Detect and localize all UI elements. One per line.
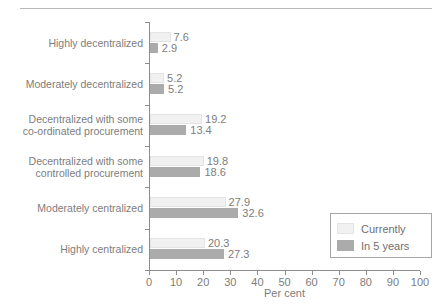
x-axis-title: Per cent — [149, 287, 420, 299]
category-label-line: Highly decentralized — [13, 37, 143, 49]
legend-swatch-currently — [337, 223, 354, 234]
bar-in-5-years: 27.3 — [150, 249, 224, 259]
x-tick-30 — [230, 271, 231, 275]
x-tick-20 — [203, 271, 204, 275]
bar-currently: 19.8 — [150, 156, 204, 166]
bar-in-5-years: 18.6 — [150, 167, 200, 177]
category-label-line: Highly centralized — [13, 243, 143, 255]
category-label-line: Moderately centralized — [13, 202, 143, 214]
bar-chart-figure: 0102030405060708090100 Highly decentrali… — [0, 0, 443, 308]
category-label: Decentralized with somecontrolled procur… — [13, 155, 143, 179]
bar-value-label: 27.3 — [228, 248, 249, 260]
bar-group: Highly decentralized7.62.9 — [149, 22, 420, 63]
top-divider-rule — [20, 8, 432, 9]
category-label-line: Decentralized with some — [13, 155, 143, 167]
bar-currently: 19.2 — [150, 114, 202, 124]
category-label: Moderately centralized — [13, 202, 143, 214]
legend-label-currently: Currently — [361, 223, 406, 235]
bar-value-label: 2.9 — [162, 42, 177, 54]
bar-value-label: 32.6 — [242, 207, 263, 219]
x-tick-0 — [149, 271, 150, 275]
category-label: Moderately decentralized — [13, 78, 143, 90]
chart-legend: Currently In 5 years — [330, 213, 432, 258]
category-label-line: controlled procurement — [13, 167, 143, 179]
category-label-line: co-ordinated procurement — [13, 125, 143, 137]
bar-in-5-years: 5.2 — [150, 84, 164, 94]
bar-currently: 5.2 — [150, 73, 164, 83]
bar-group: Decentralized with somecontrolled procur… — [149, 146, 420, 187]
x-tick-60 — [312, 271, 313, 275]
category-label: Decentralized with someco-ordinated proc… — [13, 113, 143, 137]
category-label-line: Decentralized with some — [13, 113, 143, 125]
bar-in-5-years: 13.4 — [150, 125, 186, 135]
bar-currently: 20.3 — [150, 238, 205, 248]
x-tick-90 — [393, 271, 394, 275]
category-label: Highly centralized — [13, 243, 143, 255]
bar-value-label: 20.3 — [208, 237, 229, 249]
x-tick-70 — [339, 271, 340, 275]
bar-group: Decentralized with someco-ordinated proc… — [149, 105, 420, 146]
bar-currently: 27.9 — [150, 197, 226, 207]
x-tick-10 — [176, 271, 177, 275]
legend-item-in-5-years[interactable]: In 5 years — [337, 238, 409, 253]
x-tick-50 — [285, 271, 286, 275]
x-tick-40 — [257, 271, 258, 275]
bar-value-label: 13.4 — [190, 124, 211, 136]
bar-currently: 7.6 — [150, 32, 171, 42]
bar-value-label: 5.2 — [168, 83, 183, 95]
category-label: Highly decentralized — [13, 37, 143, 49]
legend-label-in-5-years: In 5 years — [361, 240, 409, 252]
bar-in-5-years: 32.6 — [150, 208, 238, 218]
x-tick-80 — [366, 271, 367, 275]
category-label-line: Moderately decentralized — [13, 78, 143, 90]
bar-value-label: 18.6 — [204, 166, 225, 178]
bar-in-5-years: 2.9 — [150, 43, 158, 53]
x-tick-100 — [420, 271, 421, 275]
legend-item-currently[interactable]: Currently — [337, 221, 406, 236]
bar-group: Moderately decentralized5.25.2 — [149, 63, 420, 104]
legend-swatch-in-5-years — [337, 240, 354, 251]
